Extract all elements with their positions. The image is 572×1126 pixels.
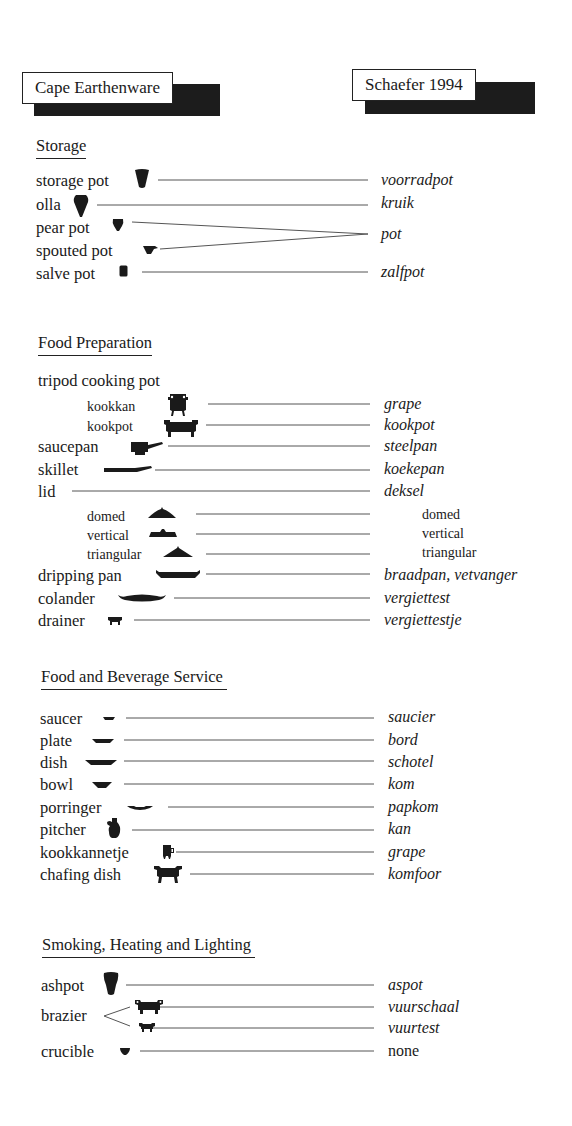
chafing-dish-icon	[153, 864, 183, 884]
pitcher-icon	[106, 817, 122, 839]
section-heading-food-preparation: Food Preparation	[38, 333, 152, 356]
term-saucer: saucer	[40, 710, 82, 728]
term-tripod-cooking-pot: tripod cooking pot	[38, 372, 160, 390]
term-drainer: drainer	[38, 612, 85, 630]
plate-icon	[91, 738, 115, 744]
term-crucible: crucible	[41, 1043, 94, 1061]
term-pear-pot: pear pot	[36, 219, 90, 237]
dutch-vertical: vertical	[422, 525, 464, 543]
kookkan-icon	[167, 393, 189, 417]
drainer-icon	[107, 616, 123, 626]
dutch-vuurschaal: vuurschaal	[388, 998, 459, 1016]
term-chafing-dish: chafing dish	[40, 866, 121, 884]
dutch-none: none	[388, 1042, 419, 1060]
term-triangular: triangular	[87, 546, 141, 564]
porringer-icon	[126, 805, 154, 811]
section-heading-storage: Storage	[36, 136, 86, 159]
olla-icon	[73, 194, 89, 218]
section-heading-smoking-heating-lighting: Smoking, Heating and Lighting	[42, 935, 255, 958]
brazier-large-icon	[134, 999, 164, 1015]
term-bowl: bowl	[40, 776, 73, 794]
term-plate: plate	[40, 732, 72, 750]
dish-icon	[84, 759, 118, 766]
dutch-schotel: schotel	[388, 753, 433, 771]
dutch-kruik: kruik	[381, 194, 414, 212]
triangular-lid-icon	[162, 546, 194, 558]
vertical-lid-icon	[148, 528, 178, 538]
left-title: Cape Earthenware	[22, 72, 173, 104]
dutch-pot: pot	[381, 225, 401, 243]
term-brazier: brazier	[41, 1007, 87, 1025]
dutch-saucier: saucier	[388, 708, 435, 726]
dutch-komfoor: komfoor	[388, 865, 441, 883]
spouted-pot-icon	[142, 245, 158, 255]
dutch-grape-2: grape	[388, 843, 425, 861]
domed-lid-icon	[147, 507, 177, 519]
dutch-domed: domed	[422, 506, 460, 524]
pear-pot-icon	[112, 218, 124, 232]
saucer-icon	[102, 716, 116, 721]
dutch-bord: bord	[388, 731, 418, 749]
kookkannetje-icon	[161, 844, 175, 860]
term-vertical: vertical	[87, 527, 129, 545]
dutch-aspot: aspot	[388, 976, 423, 994]
term-dripping-pan: dripping pan	[38, 567, 122, 585]
dripping-pan-icon	[155, 569, 201, 579]
bowl-icon	[91, 781, 113, 789]
saucepan-icon	[130, 440, 164, 456]
term-porringer: porringer	[40, 799, 101, 817]
term-olla: olla	[36, 196, 61, 214]
term-lid: lid	[38, 483, 55, 501]
term-kookkan: kookkan	[87, 398, 135, 416]
dutch-kan: kan	[388, 820, 411, 838]
dutch-kom: kom	[388, 775, 415, 793]
skillet-icon	[103, 465, 153, 475]
dutch-steelpan: steelpan	[384, 437, 437, 455]
term-saucepan: saucepan	[38, 438, 98, 456]
term-domed: domed	[87, 508, 125, 526]
dutch-papkom: papkom	[388, 798, 439, 816]
term-ashpot: ashpot	[41, 977, 84, 995]
dutch-deksel: deksel	[384, 482, 424, 500]
ashpot-icon	[102, 972, 120, 996]
dutch-vergiettestje: vergiettestje	[384, 611, 462, 629]
term-pitcher: pitcher	[40, 821, 86, 839]
dutch-vuurtest: vuurtest	[388, 1019, 440, 1037]
term-kookpot: kookpot	[87, 418, 133, 436]
kookpot-icon	[163, 418, 199, 438]
crucible-icon	[119, 1047, 131, 1056]
dutch-grape: grape	[384, 395, 421, 413]
dutch-triangular: triangular	[422, 544, 476, 562]
term-dish: dish	[40, 754, 68, 772]
right-title: Schaefer 1994	[352, 69, 476, 101]
term-colander: colander	[38, 590, 95, 608]
dutch-braadpan-vetvanger: braadpan, vetvanger	[384, 566, 517, 584]
term-spouted-pot: spouted pot	[36, 242, 113, 260]
dutch-kookpot: kookpot	[384, 416, 435, 434]
term-kookkannetje: kookkannetje	[40, 844, 129, 862]
salve-pot-icon	[119, 265, 128, 277]
dutch-vergiettest: vergiettest	[384, 589, 450, 607]
brazier-small-icon	[138, 1022, 156, 1033]
dutch-voorradpot: voorradpot	[381, 171, 453, 189]
storage-pot-icon	[134, 169, 150, 189]
dutch-zalfpot: zalfpot	[381, 263, 425, 281]
colander-icon	[117, 593, 167, 603]
section-heading-food-beverage-service: Food and Beverage Service	[41, 667, 227, 690]
term-skillet: skillet	[38, 461, 78, 479]
term-storage-pot: storage pot	[36, 172, 109, 190]
term-salve-pot: salve pot	[36, 265, 95, 283]
dutch-koekepan: koekepan	[384, 460, 444, 478]
